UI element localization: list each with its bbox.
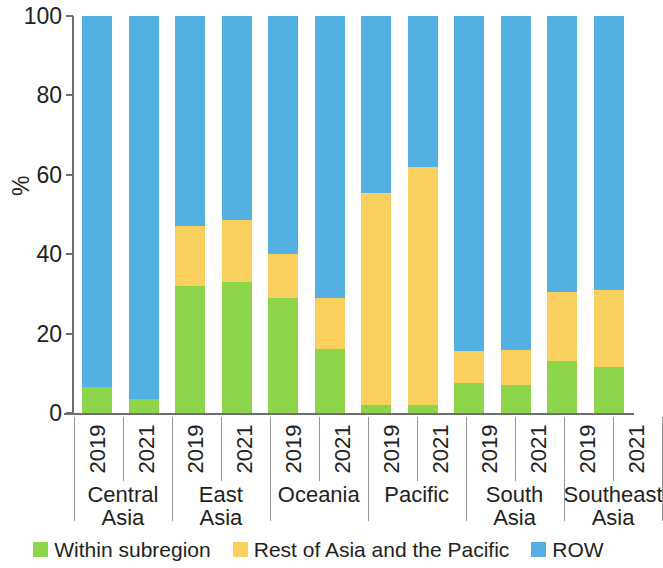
stacked-bar[interactable]: [82, 16, 112, 413]
stacked-bar[interactable]: [408, 16, 438, 413]
bar-segment[interactable]: [315, 298, 345, 350]
bar-slot: [167, 16, 214, 413]
x-axis-inner-separator: [319, 417, 320, 481]
bar-slot: [307, 16, 354, 413]
bar-segment[interactable]: [268, 254, 298, 298]
x-axis-year-label: 2021: [528, 424, 550, 473]
x-axis-inner-separator: [123, 417, 124, 481]
bar-segment[interactable]: [315, 349, 345, 413]
bar-group: [446, 16, 539, 413]
x-axis-group: 20192021South Asia: [466, 415, 564, 523]
x-axis-year-cell: 2021: [613, 415, 663, 482]
bar-slot: [493, 16, 540, 413]
bar-segment[interactable]: [454, 351, 484, 383]
x-axis-year-label: 2019: [479, 424, 501, 473]
bar-segment[interactable]: [175, 286, 205, 413]
y-axis-tick-label: 20: [36, 322, 62, 345]
bar-segment[interactable]: [501, 350, 531, 386]
bar-segment[interactable]: [594, 367, 624, 413]
x-axis-group-separator: [368, 417, 369, 521]
x-axis-year-label: 2021: [234, 424, 256, 473]
legend-swatch-icon: [531, 542, 546, 557]
legend-item[interactable]: ROW: [531, 539, 603, 560]
x-axis-group-label: Oceania: [270, 482, 368, 523]
bar-segment[interactable]: [268, 298, 298, 413]
bar-segment[interactable]: [594, 16, 624, 290]
x-axis-inner-separator: [417, 417, 418, 481]
x-axis-year-row: 20192021: [270, 415, 368, 482]
bar-segment[interactable]: [222, 16, 252, 220]
bar-segment[interactable]: [454, 16, 484, 351]
bar-segment[interactable]: [408, 405, 438, 413]
stacked-bar[interactable]: [361, 16, 391, 413]
legend-label: ROW: [552, 539, 603, 560]
x-axis-year-row: 20192021: [74, 415, 172, 482]
x-axis-year-cell: 2019: [270, 415, 319, 482]
y-axis-tick-label: 40: [36, 243, 62, 266]
bar-slot: [214, 16, 261, 413]
x-axis-year-label: 2019: [381, 424, 403, 473]
bar-slot: [260, 16, 307, 413]
bar-segment[interactable]: [547, 16, 577, 292]
x-axis-group: 20192021Central Asia: [74, 415, 172, 523]
x-axis-year-label: 2019: [87, 424, 109, 473]
x-axis-year-label: 2021: [136, 424, 158, 473]
x-axis-year-cell: 2019: [74, 415, 123, 482]
bar-segment[interactable]: [129, 399, 159, 413]
x-axis-group-label: Central Asia: [74, 482, 172, 523]
bar-segment[interactable]: [82, 16, 112, 387]
bar-segment[interactable]: [129, 16, 159, 399]
x-axis-group-label: Southeast Asia: [564, 482, 663, 523]
bar-segment[interactable]: [408, 167, 438, 405]
x-axis-year-cell: 2021: [319, 415, 368, 482]
stacked-bar[interactable]: [594, 16, 624, 413]
bar-segment[interactable]: [361, 16, 391, 193]
legend-item[interactable]: Rest of Asia and the Pacific: [233, 539, 510, 560]
stacked-bar[interactable]: [315, 16, 345, 413]
stacked-bar[interactable]: [547, 16, 577, 413]
stacked-bar[interactable]: [501, 16, 531, 413]
bar-segment[interactable]: [501, 385, 531, 413]
legend-item[interactable]: Within subregion: [33, 539, 210, 560]
x-axis-inner-separator: [221, 417, 222, 481]
x-axis-inner-separator: [515, 417, 516, 481]
bar-segment[interactable]: [361, 193, 391, 405]
bar-segment[interactable]: [594, 290, 624, 367]
bar-segment[interactable]: [361, 405, 391, 413]
bar-segment[interactable]: [408, 16, 438, 167]
x-axis-year-cell: 2021: [515, 415, 564, 482]
x-axis-group-label: Pacific: [368, 482, 466, 523]
bar-segment[interactable]: [222, 220, 252, 282]
bar-segment[interactable]: [82, 387, 112, 413]
stacked-bar[interactable]: [222, 16, 252, 413]
bar-segment[interactable]: [547, 292, 577, 361]
bar-segment[interactable]: [315, 16, 345, 298]
stacked-bar[interactable]: [129, 16, 159, 413]
stacked-bar[interactable]: [175, 16, 205, 413]
bar-segment[interactable]: [175, 16, 205, 226]
bar-slot: [586, 16, 633, 413]
y-axis-tick-label: 100: [24, 5, 62, 28]
x-axis-group: 20192021Pacific: [368, 415, 466, 523]
stacked-bar[interactable]: [454, 16, 484, 413]
x-axis-year-row: 20192021: [368, 415, 466, 482]
bar-segment[interactable]: [547, 361, 577, 413]
bar-segment[interactable]: [222, 282, 252, 413]
bar-segment[interactable]: [268, 16, 298, 254]
y-axis-tick-label: 80: [36, 84, 62, 107]
x-axis-year-label: 2021: [430, 424, 452, 473]
bar-slot: [353, 16, 400, 413]
x-axis-year-row: 20192021: [172, 415, 270, 482]
x-axis-year-label: 2019: [283, 424, 305, 473]
stacked-bar[interactable]: [268, 16, 298, 413]
bar-group: [260, 16, 353, 413]
legend-label: Rest of Asia and the Pacific: [254, 539, 510, 560]
x-axis-year-label: 2021: [627, 424, 649, 473]
x-axis-labels: 20192021Central Asia20192021East Asia201…: [74, 415, 632, 523]
bar-segment[interactable]: [501, 16, 531, 349]
x-axis-year-cell: 2019: [564, 415, 614, 482]
bar-segment[interactable]: [454, 383, 484, 413]
x-axis-group-separator: [270, 417, 271, 521]
bar-segment[interactable]: [175, 226, 205, 286]
